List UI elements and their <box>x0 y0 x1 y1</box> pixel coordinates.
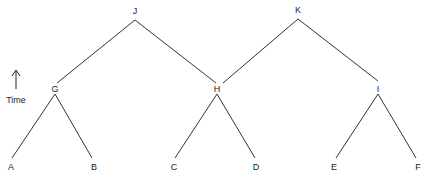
node-label-c: C <box>171 162 178 172</box>
edge-j-g <box>57 20 135 83</box>
edge-k-i <box>298 19 378 81</box>
node-label-j: J <box>133 6 138 16</box>
edge-j-h <box>135 20 216 83</box>
edge-i-e <box>336 94 378 158</box>
node-label-k: K <box>295 5 301 15</box>
edge-k-h <box>223 19 298 83</box>
edge-h-c <box>175 94 217 158</box>
tree-nodes: JKGHIABCDEF <box>8 5 421 172</box>
edge-h-d <box>217 94 255 158</box>
time-axis: Time <box>6 70 26 105</box>
node-label-i: I <box>377 84 380 94</box>
phylogenetic-tree-diagram: JKGHIABCDEF Time <box>0 0 427 182</box>
node-label-h: H <box>214 84 221 94</box>
edge-i-f <box>378 94 416 158</box>
node-label-b: B <box>91 162 97 172</box>
node-label-g: G <box>51 84 58 94</box>
time-axis-label: Time <box>6 95 26 105</box>
edge-g-b <box>55 94 92 158</box>
node-label-f: F <box>415 162 421 172</box>
node-label-a: A <box>8 162 14 172</box>
node-label-d: D <box>253 162 260 172</box>
node-label-e: E <box>331 162 337 172</box>
